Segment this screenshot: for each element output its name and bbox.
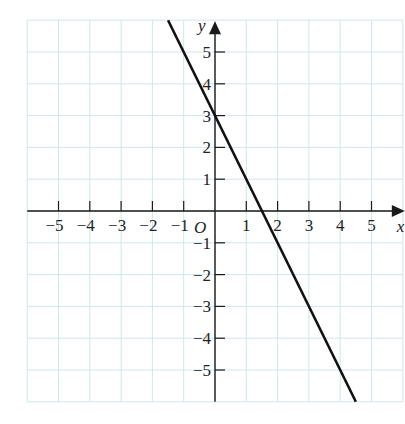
x-axis-label: x <box>396 217 405 236</box>
x-tick-label: −3 <box>108 216 126 235</box>
y-tick-label: 3 <box>203 107 212 126</box>
x-tick-label: 1 <box>242 216 251 235</box>
y-tick-label: 2 <box>203 138 212 157</box>
coordinate-plane: −5−4−3−2−11234554321−1−2−3−4−5 x y O <box>0 0 405 424</box>
y-axis-arrow-icon <box>209 21 221 34</box>
y-tick-label: −2 <box>193 266 211 285</box>
x-tick-label: −1 <box>171 216 189 235</box>
x-tick-label: −4 <box>77 216 96 235</box>
y-tick-label: −5 <box>193 361 211 380</box>
y-tick-label: −3 <box>193 297 211 316</box>
y-axis-label: y <box>196 16 206 35</box>
y-tick-label: 1 <box>203 170 212 189</box>
y-tick-label: 5 <box>203 43 212 62</box>
x-tick-label: 2 <box>273 216 282 235</box>
origin-label: O <box>194 218 206 237</box>
x-tick-label: 3 <box>305 216 314 235</box>
axes <box>27 21 405 402</box>
y-tick-label: −4 <box>193 329 212 348</box>
x-tick-label: −2 <box>139 216 157 235</box>
x-tick-label: −5 <box>45 216 63 235</box>
x-tick-label: 4 <box>336 216 345 235</box>
x-tick-label: 5 <box>367 216 376 235</box>
